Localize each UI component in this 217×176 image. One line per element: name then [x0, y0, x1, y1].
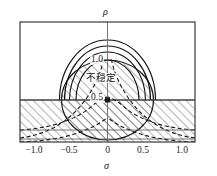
x-axis-name: σ	[104, 160, 109, 171]
y-value-label-0-5: 0.5	[90, 93, 104, 103]
x-tick-label-minus-0-5: −0.5	[53, 145, 85, 155]
origin-marker	[105, 98, 110, 103]
x-tick-label-minus-1: −1.0	[18, 145, 50, 155]
y-axis-name: ρ	[103, 6, 108, 17]
phase-diagram-figure: ρ σ −1.0 −0.5 0 0.5 1.0 1.0 0.5 不穏定	[0, 0, 217, 176]
y-value-label-1: 1.0	[90, 55, 104, 65]
x-tick-label-0-5: 0.5	[128, 145, 158, 155]
x-tick-label-zero: 0	[95, 145, 120, 155]
x-tick-label-1: 1.0	[167, 145, 197, 155]
unstable-region-label: 不穏定	[85, 73, 117, 83]
